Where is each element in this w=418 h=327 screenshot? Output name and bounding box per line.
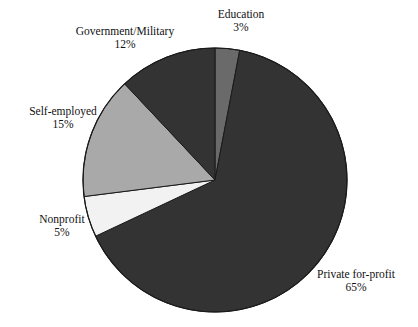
slice-label-self-employed-value: 15%: [8, 118, 118, 131]
slice-label-nonprofit-name: Nonprofit: [8, 213, 116, 226]
slice-label-nonprofit: Nonprofit 5%: [8, 213, 116, 239]
slice-label-private-for-profit-name: Private for-profit: [296, 268, 416, 281]
slice-label-government-military: Government/Military 12%: [55, 25, 195, 51]
slice-label-private-for-profit-value: 65%: [296, 281, 416, 294]
slice-label-private-for-profit: Private for-profit 65%: [296, 268, 416, 294]
slice-label-self-employed: Self-employed 15%: [8, 105, 118, 131]
slice-label-government-military-value: 12%: [55, 38, 195, 51]
slice-label-education: Education 3%: [196, 8, 286, 34]
slice-label-education-name: Education: [196, 8, 286, 21]
slice-label-government-military-name: Government/Military: [55, 25, 195, 38]
slice-label-self-employed-name: Self-employed: [8, 105, 118, 118]
slice-label-nonprofit-value: 5%: [8, 226, 116, 239]
slice-label-education-value: 3%: [196, 21, 286, 34]
pie-chart-figure: Education 3% Government/Military 12% Sel…: [0, 0, 418, 327]
